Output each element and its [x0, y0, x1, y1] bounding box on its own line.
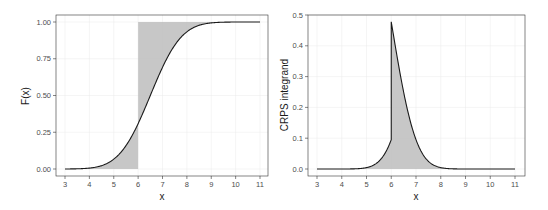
- y-tick-label: 1.00: [36, 18, 51, 27]
- right-panel: 0.00.10.20.30.40.5 34567891011 x CRPS in…: [279, 11, 525, 202]
- right-x-axis: 34567891011: [315, 176, 519, 189]
- y-tick-label: 0.50: [36, 91, 51, 100]
- x-tick-label: 11: [511, 180, 519, 189]
- x-tick-label: 9: [463, 180, 467, 189]
- left-x-axis-title: x: [160, 191, 165, 202]
- x-tick-label: 7: [414, 180, 418, 189]
- right-x-axis-title: x: [414, 191, 419, 202]
- x-tick-label: 5: [364, 180, 368, 189]
- x-tick-label: 4: [87, 180, 91, 189]
- y-tick-label: 0.75: [36, 54, 51, 63]
- x-tick-label: 3: [315, 180, 319, 189]
- x-tick-label: 6: [389, 180, 393, 189]
- y-tick-label: 0.4: [293, 41, 303, 50]
- figure: 0.000.250.500.751.00 34567891011 x F(x) …: [0, 0, 548, 210]
- y-tick-label: 0.0: [293, 165, 303, 174]
- x-tick-label: 11: [256, 180, 264, 189]
- x-tick-label: 7: [160, 180, 164, 189]
- left-y-axis: 0.000.250.500.751.00: [36, 18, 56, 174]
- y-tick-label: 0.3: [293, 72, 303, 81]
- x-tick-label: 8: [185, 180, 189, 189]
- right-y-axis-title: CRPS integrand: [279, 59, 290, 131]
- y-tick-label: 0.2: [293, 103, 303, 112]
- x-tick-label: 3: [63, 180, 67, 189]
- x-tick-label: 8: [439, 180, 443, 189]
- left-panel: 0.000.250.500.751.00 34567891011 x F(x): [20, 15, 268, 202]
- x-tick-label: 6: [136, 180, 140, 189]
- y-tick-label: 0.5: [293, 11, 303, 20]
- y-tick-label: 0.1: [293, 134, 303, 143]
- y-tick-label: 0.00: [36, 165, 51, 174]
- x-tick-label: 10: [486, 180, 494, 189]
- left-x-axis: 34567891011: [63, 176, 264, 189]
- left-y-axis-title: F(x): [20, 87, 31, 105]
- y-tick-label: 0.25: [36, 128, 51, 137]
- right-y-axis: 0.00.10.20.30.40.5: [293, 11, 308, 174]
- x-tick-label: 5: [112, 180, 116, 189]
- x-tick-label: 4: [340, 180, 344, 189]
- x-tick-label: 10: [231, 180, 239, 189]
- x-tick-label: 9: [209, 180, 213, 189]
